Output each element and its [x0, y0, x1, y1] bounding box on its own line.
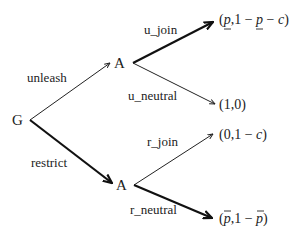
payoff-r-neutral: (p,1 − p) — [219, 211, 268, 227]
edge-label-u-join: u_join — [144, 22, 178, 37]
svg-text:(p,1 − p − c): (p,1 − p − c) — [219, 12, 289, 28]
edge-label-u-neutral: u_neutral — [128, 88, 177, 103]
payoff-u-join: (p,1 − p − c) — [219, 12, 289, 29]
edge-label-restrict: restrict — [31, 155, 67, 170]
svg-text:(p,1 − p): (p,1 − p) — [219, 211, 268, 227]
edge-label-r-join: r_join — [147, 134, 179, 149]
payoff-r-join: (0,1 − c) — [219, 127, 267, 143]
edge-restrict — [30, 120, 112, 183]
edge-label-unleash: unleash — [27, 70, 67, 85]
node-a-lower: A — [116, 177, 127, 193]
payoff-u-neutral: (1,0) — [219, 97, 246, 113]
node-a-upper: A — [114, 55, 125, 71]
game-tree-diagram: G unleash restrict A u_join u_neutral A … — [0, 0, 294, 237]
edge-label-r-neutral: r_neutral — [130, 202, 177, 217]
node-g: G — [12, 112, 23, 128]
